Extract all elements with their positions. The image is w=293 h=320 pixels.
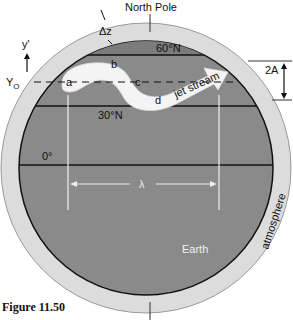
point-d-label: d [155,94,161,106]
earth-label: Earth [182,243,208,255]
point-c-label: c [135,76,141,88]
lat-0-label: 0° [42,150,53,162]
yo-label: YO [6,76,20,91]
amplitude-arrowhead-up-icon [281,63,287,69]
delta-z-label: Δz [99,25,112,37]
lat-60-label: 60°N [156,42,181,54]
amplitude-arrowhead-down-icon [281,93,287,99]
figure-caption: Figure 11.50 [2,300,65,315]
point-a-label: a [66,76,73,88]
jet-stream-diagram: North Pole Δz 60°N 30°N 0° y' YO a b c d… [0,0,293,320]
earth-disk [19,41,273,295]
point-b-label: b [111,58,117,70]
delta-z-arrow-top [101,10,105,20]
two-a-label: 2A [265,64,279,76]
y-prime-label: y' [22,38,30,50]
lambda-label: λ [139,178,145,190]
y-prime-arrowhead-icon [24,53,30,59]
lat-30-label: 30°N [98,109,123,121]
north-pole-label: North Pole [125,1,177,13]
